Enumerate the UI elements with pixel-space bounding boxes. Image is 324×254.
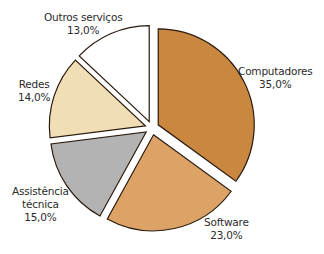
label-software-name: Software xyxy=(204,216,249,229)
label-software: Software 23,0% xyxy=(204,216,249,242)
label-assistencia-name-1: Assistência xyxy=(12,185,69,198)
label-software-value: 23,0% xyxy=(204,229,249,242)
label-redes: Redes 14,0% xyxy=(18,78,50,104)
label-outros-name: Outros serviços xyxy=(44,11,122,24)
label-outros-value: 13,0% xyxy=(44,24,122,37)
label-assistencia-value: 15,0% xyxy=(12,211,69,224)
label-redes-value: 14,0% xyxy=(18,91,50,104)
label-assistencia-name-2: técnica xyxy=(12,198,69,211)
label-computadores: Computadores 35,0% xyxy=(238,65,313,91)
label-outros: Outros serviços 13,0% xyxy=(44,11,122,37)
label-computadores-value: 35,0% xyxy=(238,78,313,91)
label-computadores-name: Computadores xyxy=(238,65,313,78)
label-redes-name: Redes xyxy=(18,78,50,91)
label-assistencia: Assistência técnica 15,0% xyxy=(12,185,69,224)
pie-slices xyxy=(49,26,254,231)
